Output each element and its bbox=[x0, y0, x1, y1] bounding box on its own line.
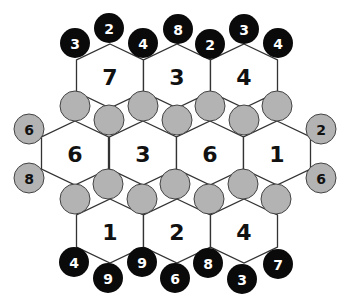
hex-value: 7 bbox=[102, 65, 117, 90]
black-number-token: 3 bbox=[60, 28, 90, 58]
black-number-token: 9 bbox=[127, 247, 157, 277]
hex-value: 3 bbox=[169, 65, 184, 90]
empty-slot-circle[interactable] bbox=[160, 169, 190, 199]
token-value: 7 bbox=[273, 257, 283, 273]
token-value: 4 bbox=[273, 36, 283, 52]
token-value: 3 bbox=[239, 22, 249, 38]
black-number-token: 3 bbox=[229, 14, 259, 44]
hex-value: 3 bbox=[135, 142, 150, 167]
token-value: 9 bbox=[103, 271, 113, 287]
empty-slot-circle[interactable] bbox=[162, 105, 192, 135]
empty-slot-circle[interactable] bbox=[94, 105, 124, 135]
token-value: 4 bbox=[69, 255, 79, 271]
token-value: 6 bbox=[170, 271, 180, 287]
empty-slot-circle[interactable] bbox=[60, 91, 90, 121]
gray-number-token: 8 bbox=[14, 163, 44, 193]
token-value: 4 bbox=[138, 36, 148, 52]
token-value: 2 bbox=[205, 37, 215, 53]
black-number-token: 4 bbox=[263, 28, 293, 58]
token-value: 8 bbox=[203, 256, 213, 272]
token-value: 8 bbox=[24, 171, 34, 187]
token-value: 2 bbox=[316, 122, 326, 138]
empty-slot-circle[interactable] bbox=[261, 184, 291, 214]
token-value: 8 bbox=[173, 22, 183, 38]
empty-slot-circle[interactable] bbox=[128, 91, 158, 121]
token-value: 9 bbox=[137, 255, 147, 271]
hex-value: 4 bbox=[236, 220, 251, 245]
hex-puzzle-board: 7346361124 682632482344996837 bbox=[0, 0, 354, 306]
black-number-token: 8 bbox=[193, 248, 223, 278]
black-number-token: 9 bbox=[93, 263, 123, 293]
black-number-token: 7 bbox=[263, 249, 293, 279]
empty-slot-circle[interactable] bbox=[93, 169, 123, 199]
black-number-token: 4 bbox=[128, 28, 158, 58]
hex-value: 6 bbox=[67, 142, 82, 167]
empty-slot-circle[interactable] bbox=[60, 184, 90, 214]
empty-slot-circle[interactable] bbox=[228, 169, 258, 199]
empty-slot-circle[interactable] bbox=[262, 91, 292, 121]
hex-value: 1 bbox=[269, 142, 284, 167]
token-value: 2 bbox=[104, 21, 114, 37]
black-number-token: 3 bbox=[227, 264, 257, 294]
black-number-token: 4 bbox=[59, 247, 89, 277]
token-value: 3 bbox=[237, 272, 247, 288]
black-number-token: 2 bbox=[94, 13, 124, 43]
token-value: 3 bbox=[70, 36, 80, 52]
empty-slot-circle[interactable] bbox=[127, 184, 157, 214]
empty-slot-circle[interactable] bbox=[229, 105, 259, 135]
gray-number-token: 6 bbox=[306, 163, 336, 193]
gray-number-token: 6 bbox=[14, 114, 44, 144]
gray-number-token: 2 bbox=[306, 114, 336, 144]
empty-slot-circle[interactable] bbox=[194, 184, 224, 214]
hex-value: 2 bbox=[169, 220, 184, 245]
black-number-token: 8 bbox=[163, 14, 193, 44]
black-number-token: 2 bbox=[195, 29, 225, 59]
hex-value: 1 bbox=[102, 220, 117, 245]
hex-grid: 7346361124 bbox=[42, 44, 311, 263]
empty-slot-circle[interactable] bbox=[195, 91, 225, 121]
token-value: 6 bbox=[316, 171, 326, 187]
token-value: 6 bbox=[24, 122, 34, 138]
black-number-token: 6 bbox=[160, 263, 190, 293]
hex-value: 4 bbox=[236, 65, 251, 90]
hex-value: 6 bbox=[202, 142, 217, 167]
